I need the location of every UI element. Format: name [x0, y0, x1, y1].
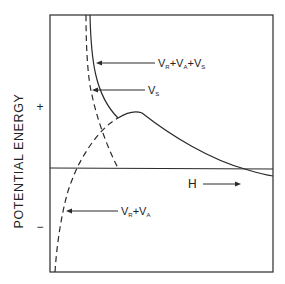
- x-axis-label: H: [188, 177, 197, 191]
- y-axis-label: POTENTIAL ENERGY: [12, 94, 26, 229]
- total-curve-label: VR+VA+VS: [158, 57, 205, 70]
- arrowhead-icon: [92, 88, 98, 93]
- minus-sign: −: [36, 220, 43, 234]
- total-potential-curve: [90, 15, 273, 176]
- plot-frame: [50, 15, 273, 272]
- arrowhead-icon: [235, 182, 241, 187]
- arrowhead-icon: [66, 209, 72, 214]
- dlvo-curve-label: VR+VA: [121, 205, 150, 218]
- arrowhead-icon: [96, 61, 102, 66]
- dlvo-potential-curve: [55, 118, 118, 272]
- plus-sign: +: [36, 100, 43, 114]
- steric-curve-label: VS: [148, 84, 159, 97]
- potential-energy-diagram: VR+VA+VS VS VR+VA H + − POTENTIAL ENERGY: [0, 0, 285, 284]
